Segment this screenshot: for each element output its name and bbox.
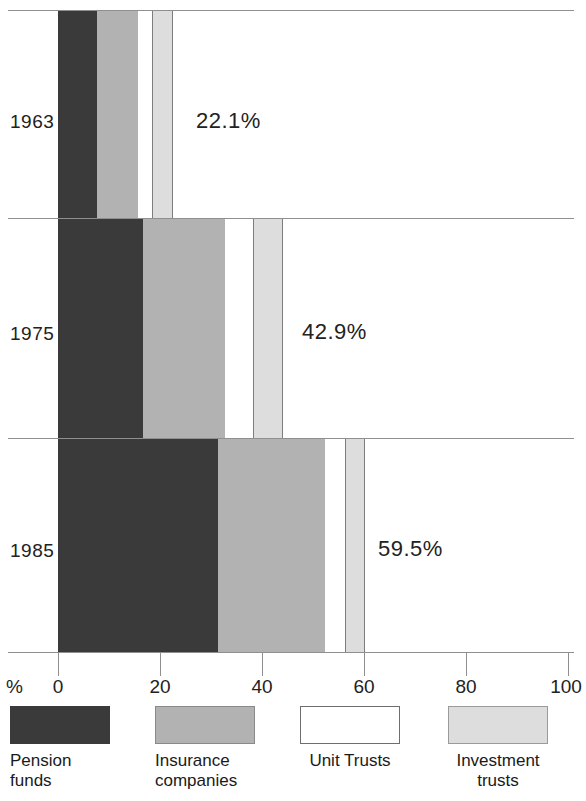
row-total-1963: 22.1% bbox=[196, 108, 261, 134]
axis-tick-label-60: 60 bbox=[353, 676, 374, 698]
bar-segment-pension-1975 bbox=[58, 219, 143, 438]
legend-label-insurance-companies: Insurance companies bbox=[155, 751, 255, 791]
bar-1985 bbox=[58, 439, 365, 652]
axis-tick-label-100: 100 bbox=[550, 676, 582, 698]
bar-segment-investment-1963 bbox=[152, 11, 173, 218]
row-label-1963: 1963 bbox=[10, 111, 54, 133]
row-total-1985: 59.5% bbox=[378, 536, 443, 562]
axis-tick-20 bbox=[160, 652, 161, 676]
bar-segment-insurance-1975 bbox=[143, 219, 225, 438]
legend-item-unit-trusts: Unit Trusts bbox=[300, 706, 400, 771]
bar-segment-unit-trusts-1975 bbox=[225, 219, 253, 438]
axis-tick-label-40: 40 bbox=[251, 676, 272, 698]
bar-segment-pension-1963 bbox=[58, 11, 97, 218]
chart-row-1985: 1985 59.5% bbox=[0, 439, 586, 652]
legend-swatch-pension-funds bbox=[10, 706, 110, 744]
axis-unit-label: % bbox=[6, 676, 23, 698]
axis-tick-80 bbox=[466, 652, 467, 676]
plot-area: 1963 22.1% 1975 42.9% 1985 bbox=[0, 0, 586, 660]
legend-label-investment-trusts: Investment trusts bbox=[448, 751, 548, 791]
row-label-1985: 1985 bbox=[10, 540, 54, 562]
bar-1963 bbox=[58, 11, 173, 218]
bar-segment-insurance-1985 bbox=[218, 439, 325, 652]
legend-item-investment-trusts: Investment trusts bbox=[448, 706, 548, 791]
chart-row-1963: 1963 22.1% bbox=[0, 11, 586, 218]
legend-swatch-investment-trusts bbox=[448, 706, 548, 744]
bar-segment-unit-trusts-1963 bbox=[138, 11, 152, 218]
legend-item-pension-funds: Pension funds bbox=[10, 706, 110, 791]
axis-tick-0 bbox=[58, 652, 59, 676]
legend-swatch-unit-trusts bbox=[300, 706, 400, 744]
legend-label-pension-funds: Pension funds bbox=[10, 751, 110, 791]
legend-swatch-insurance-companies bbox=[155, 706, 255, 744]
axis-tick-100 bbox=[568, 652, 569, 676]
axis-line bbox=[8, 652, 574, 653]
bar-segment-insurance-1963 bbox=[97, 11, 138, 218]
bar-segment-unit-trusts-1985 bbox=[325, 439, 345, 652]
bar-1975 bbox=[58, 219, 283, 438]
axis-tick-label-80: 80 bbox=[455, 676, 476, 698]
legend-item-insurance-companies: Insurance companies bbox=[155, 706, 255, 791]
chart-row-1975: 1975 42.9% bbox=[0, 219, 586, 438]
bar-segment-investment-1975 bbox=[253, 219, 283, 438]
chart-legend: Pension funds Insurance companies Unit T… bbox=[0, 706, 586, 801]
axis-tick-label-20: 20 bbox=[149, 676, 170, 698]
bar-segment-pension-1985 bbox=[58, 439, 218, 652]
axis-tick-label-0: 0 bbox=[53, 676, 64, 698]
row-label-1975: 1975 bbox=[10, 323, 54, 345]
bar-segment-investment-1985 bbox=[345, 439, 365, 652]
stacked-bar-chart: 1963 22.1% 1975 42.9% 1985 bbox=[0, 0, 586, 801]
legend-label-unit-trusts: Unit Trusts bbox=[300, 751, 400, 771]
axis-tick-60 bbox=[364, 652, 365, 676]
row-total-1975: 42.9% bbox=[302, 319, 367, 345]
axis-tick-40 bbox=[262, 652, 263, 676]
x-axis: % 0 20 40 60 80 100 bbox=[0, 652, 586, 700]
